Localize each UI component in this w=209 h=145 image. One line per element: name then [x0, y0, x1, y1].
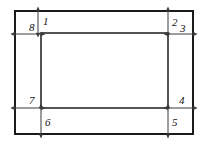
dimension-diagram: 12345678 — [0, 0, 209, 145]
dimension-label-6: 6 — [45, 116, 51, 128]
dimension-4: 4 — [168, 94, 193, 108]
dimension-6: 6 — [41, 108, 51, 134]
dimension-label-8: 8 — [29, 21, 35, 33]
dimension-8: 8 — [15, 21, 41, 34]
dimension-label-3: 3 — [179, 22, 186, 34]
dimension-label-1: 1 — [43, 15, 49, 27]
dimension-1: 1 — [38, 11, 49, 33]
dimension-label-2: 2 — [172, 16, 178, 28]
dimension-label-5: 5 — [172, 116, 178, 128]
diagram-canvas: 12345678 — [0, 0, 209, 145]
rectangles-group — [15, 11, 193, 134]
dimension-5: 5 — [168, 108, 178, 134]
dimension-7: 7 — [15, 94, 41, 108]
dimension-2: 2 — [168, 11, 178, 33]
inner-rectangle — [41, 33, 168, 108]
dimension-label-4: 4 — [179, 94, 185, 106]
dimension-label-7: 7 — [29, 94, 35, 106]
